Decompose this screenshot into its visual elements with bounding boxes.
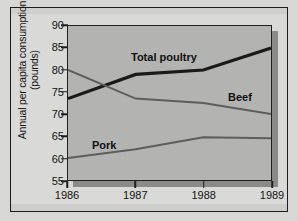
plot-area — [67, 25, 272, 181]
x-tick-mark — [66, 181, 68, 188]
line-chart-figure: Annual per capita consumption (pounds) 9… — [0, 0, 297, 221]
series-label-pork: Pork — [92, 139, 116, 151]
x-axis-tick-labels: 1986 1987 1988 1989 — [67, 189, 272, 205]
x-tick-label: 1987 — [123, 189, 147, 201]
series-label-total-poultry: Total poultry — [131, 51, 197, 63]
x-tick-label: 1986 — [55, 189, 79, 201]
x-tick-label: 1988 — [191, 189, 215, 201]
x-tick-mark — [203, 181, 205, 188]
series-label-beef: Beef — [228, 91, 252, 103]
x-tick-mark — [271, 181, 273, 188]
plot-lines — [68, 26, 271, 180]
y-axis-tick-labels: 90 85 80 75 70 65 60 55 — [36, 25, 64, 181]
x-tick-label: 1989 — [260, 189, 284, 201]
x-tick-mark — [135, 181, 137, 188]
